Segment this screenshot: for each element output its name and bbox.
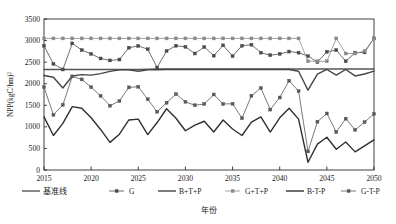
series-marker (175, 37, 178, 40)
series-marker (146, 48, 149, 51)
series-marker (90, 86, 93, 89)
y-axis-label-text: NPP(kgC/hm)2 (6, 72, 15, 117)
series-marker (269, 37, 272, 40)
legend-label: B+T+P (179, 187, 202, 196)
series-marker (90, 37, 93, 40)
series-marker (80, 78, 83, 81)
x-tick-label: 2050 (366, 174, 381, 183)
series-marker (297, 90, 300, 93)
series-marker (165, 37, 168, 40)
series-marker (269, 108, 272, 111)
series-marker (344, 60, 347, 63)
series-marker (184, 100, 187, 103)
series-marker (203, 102, 206, 105)
series-marker (80, 49, 83, 52)
y-tick-label: 3500 (25, 15, 40, 24)
legend-label: 基准线 (43, 186, 67, 196)
y-tick-label: 1000 (25, 122, 40, 131)
series-marker (259, 51, 262, 54)
series-marker (52, 62, 55, 65)
series-marker (354, 52, 357, 55)
legend-marker-swatch (347, 189, 350, 192)
series-marker (250, 37, 253, 40)
series-marker (99, 94, 102, 97)
series-marker (137, 44, 140, 47)
series-marker (43, 44, 46, 47)
y-tick-label: 1500 (25, 101, 40, 110)
y-tick-label: 3000 (25, 36, 40, 45)
x-tick-label: 2035 (225, 174, 240, 183)
series-marker (288, 37, 291, 40)
series-marker (307, 55, 310, 58)
series-marker (325, 60, 328, 63)
x-tick-label: 2040 (272, 174, 287, 183)
series-marker (241, 117, 244, 120)
chart-figure: 0500100015002000250030003500 20152020202… (0, 0, 396, 224)
y-tick-label: 2500 (25, 58, 40, 67)
series-marker (118, 37, 121, 40)
series-marker (203, 46, 206, 49)
series-marker (316, 120, 319, 123)
series-marker (193, 37, 196, 40)
series-marker (61, 103, 64, 106)
series-marker (193, 52, 196, 55)
series-marker (307, 60, 310, 63)
x-tick-label: 2025 (131, 174, 146, 183)
series-marker (156, 110, 159, 113)
series-marker (288, 79, 291, 82)
series-marker (259, 37, 262, 40)
series-marker (203, 37, 206, 40)
x-tick-label: 2020 (84, 174, 99, 183)
series-marker (335, 49, 338, 52)
series-marker (43, 37, 46, 40)
series-marker (184, 37, 187, 40)
series-marker (222, 37, 225, 40)
x-axis-label-text: 年份 (201, 205, 217, 215)
legend-marker-swatch (231, 189, 234, 192)
series-marker (363, 49, 366, 52)
series-marker (175, 44, 178, 47)
series-marker (325, 112, 328, 115)
series-marker (212, 37, 215, 40)
npp-line-chart: 0500100015002000250030003500 20152020202… (0, 0, 396, 224)
legend-label: G (129, 187, 135, 196)
series-marker (118, 58, 121, 61)
series-marker (127, 86, 130, 89)
y-tick-label: 500 (29, 144, 41, 153)
series-marker (193, 104, 196, 107)
series-marker (373, 37, 376, 40)
series-marker (307, 150, 310, 153)
series-marker (278, 37, 281, 40)
series-marker (259, 87, 262, 90)
series-marker (222, 102, 225, 105)
series-marker (231, 37, 234, 40)
series-marker (250, 43, 253, 46)
series-marker (354, 128, 357, 131)
series-marker (212, 54, 215, 57)
series-marker (137, 85, 140, 88)
series-marker (344, 117, 347, 120)
series-marker (222, 44, 225, 47)
series-marker (241, 37, 244, 40)
series-marker (71, 37, 74, 40)
legend-label: B-T-P (307, 187, 325, 196)
series-marker (52, 37, 55, 40)
series-marker (137, 37, 140, 40)
legend-label: G+T+P (245, 187, 268, 196)
series-marker (175, 93, 178, 96)
x-tick-label: 2045 (319, 174, 334, 183)
series-marker (61, 68, 64, 71)
series-marker (109, 104, 112, 107)
series-marker (156, 66, 159, 69)
series-marker (109, 59, 112, 62)
series-marker (99, 37, 102, 40)
y-tick-label: 2000 (25, 79, 40, 88)
series-marker (71, 75, 74, 78)
x-tick-label: 2015 (36, 174, 51, 183)
series-marker (288, 50, 291, 53)
series-marker (373, 112, 376, 115)
series-marker (335, 37, 338, 40)
series-marker (43, 86, 46, 89)
series-marker (80, 37, 83, 40)
series-marker (90, 52, 93, 55)
